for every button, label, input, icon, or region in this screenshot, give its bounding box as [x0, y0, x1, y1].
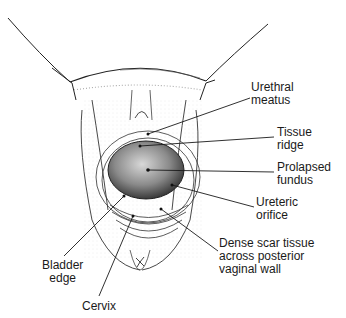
label-tissue-ridge: Tissue ridge [277, 126, 312, 152]
label-dense-scar-tissue: Dense scar tissue across posterior vagin… [219, 237, 314, 276]
thigh-outlines [8, 18, 268, 100]
label-prolapsed-fundus: Prolapsed fundus [277, 161, 331, 187]
pubic-arch [70, 68, 206, 90]
label-ureteric-orifice: Ureteric orifice [256, 196, 298, 222]
label-cervix: Cervix [82, 300, 116, 313]
label-bladder-edge: Bladder edge [42, 259, 83, 285]
label-urethral-meatus: Urethral meatus [251, 81, 294, 107]
